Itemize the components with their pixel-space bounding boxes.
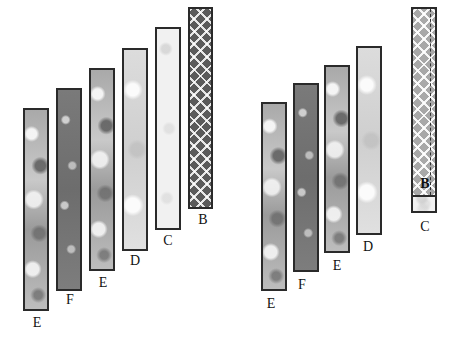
fabric-strip-c xyxy=(155,27,181,230)
strip-label: E xyxy=(267,297,276,311)
segment-label-c: C xyxy=(420,220,429,234)
strip-label: D xyxy=(363,240,373,254)
seam-line xyxy=(430,9,431,195)
fabric-strip-e-1 xyxy=(23,108,49,311)
fabric-strip-e-2 xyxy=(89,68,115,271)
segment-label-b: B xyxy=(420,177,429,191)
fabric-strip-d xyxy=(356,46,382,235)
plaid-segment-b: B xyxy=(413,9,435,195)
strip-label: E xyxy=(99,276,108,290)
fabric-strip-e-2 xyxy=(324,65,350,253)
fabric-strip-b xyxy=(188,7,213,209)
strip-label: D xyxy=(130,254,140,268)
fabric-strip-f xyxy=(293,83,319,272)
fabric-strip-d xyxy=(122,48,148,251)
fabric-strip-f xyxy=(56,88,82,291)
strip-label: E xyxy=(33,316,42,330)
pieced-strip-b-c: B xyxy=(411,7,437,213)
strip-label: E xyxy=(333,259,342,273)
floral-segment-c xyxy=(413,195,435,211)
strip-label: C xyxy=(163,234,172,248)
fabric-strip-e-1 xyxy=(261,102,287,291)
strip-label: F xyxy=(298,278,306,292)
strip-label: F xyxy=(66,293,74,307)
strip-label: B xyxy=(198,213,207,227)
